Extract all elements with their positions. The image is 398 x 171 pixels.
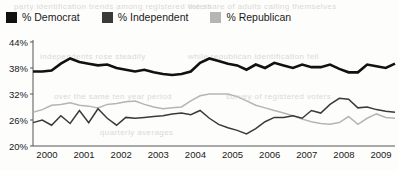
legend-item-republican[interactable]: % Republican	[210, 12, 291, 23]
series-line-independent[interactable]	[33, 98, 395, 134]
legend-swatch-independent	[102, 12, 113, 23]
bleed-text: the share of adults calling themselves	[188, 2, 337, 11]
plot-area: 20%26%32%38%44% 200020012002200320042005…	[0, 36, 398, 171]
legend-swatch-democrat	[6, 12, 17, 23]
legend-label-republican: % Republican	[226, 12, 291, 23]
series-line-democrat[interactable]	[33, 58, 395, 74]
legend-label-independent: % Independent	[118, 12, 189, 23]
chart-legend: % Democrat% Independent% Republican	[6, 12, 313, 23]
legend-label-democrat: % Democrat	[22, 12, 80, 23]
legend-item-independent[interactable]: % Independent	[102, 12, 189, 23]
legend-swatch-republican	[210, 12, 221, 23]
legend-item-democrat[interactable]: % Democrat	[6, 12, 80, 23]
chart-root: party identification trends among regist…	[0, 0, 398, 171]
bleed-text: party identification trends among regist…	[14, 2, 212, 11]
line-chart-svg	[0, 36, 398, 171]
